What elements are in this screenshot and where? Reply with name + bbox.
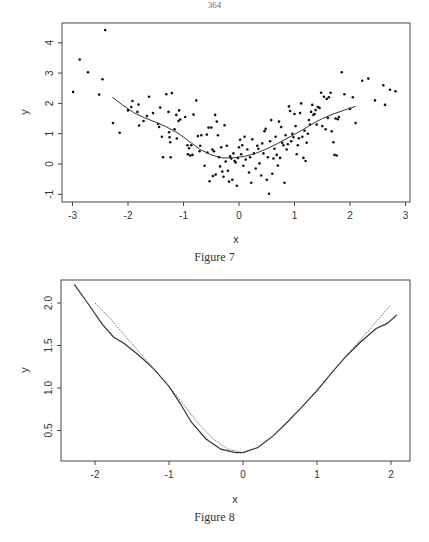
- x-axis-label: x: [232, 493, 238, 505]
- x-axis: -2-1012: [91, 461, 395, 480]
- y-axis: -101234: [44, 40, 62, 199]
- data-point: [269, 140, 272, 143]
- data-point: [176, 137, 179, 140]
- data-point: [104, 29, 107, 32]
- data-point: [216, 120, 219, 123]
- data-point: [321, 125, 324, 128]
- data-point: [287, 143, 290, 146]
- data-point: [313, 113, 316, 116]
- data-point: [236, 185, 239, 188]
- data-point: [310, 111, 313, 114]
- data-point: [159, 106, 162, 109]
- y-tick-label: 3: [44, 70, 55, 76]
- data-point: [203, 165, 206, 168]
- x-tick-label: -2: [124, 210, 133, 221]
- y-tick-label: -1: [44, 189, 55, 198]
- data-point: [308, 119, 311, 122]
- data-point: [162, 156, 165, 159]
- data-point: [329, 92, 332, 95]
- x-tick-label: -2: [91, 469, 100, 480]
- data-point: [208, 180, 211, 183]
- data-point: [188, 147, 191, 150]
- data-point: [214, 173, 217, 176]
- data-point: [165, 93, 168, 96]
- data-point: [389, 89, 392, 92]
- data-point: [242, 165, 245, 168]
- data-point: [285, 148, 288, 151]
- data-point: [273, 148, 276, 151]
- data-point: [352, 96, 355, 99]
- data-point: [207, 126, 210, 129]
- x-tick-label: -3: [68, 210, 77, 221]
- data-point: [219, 165, 222, 168]
- data-point: [271, 172, 274, 175]
- data-point: [333, 154, 336, 157]
- data-point: [223, 124, 226, 127]
- data-point: [241, 144, 244, 147]
- data-point: [98, 93, 101, 96]
- data-point: [212, 175, 215, 178]
- data-point: [142, 120, 145, 123]
- data-point: [324, 128, 327, 131]
- data-point: [189, 154, 192, 157]
- data-point: [198, 150, 201, 153]
- x-tick-label: 2: [347, 210, 353, 221]
- figure-8-caption: Figure 8: [0, 510, 429, 525]
- data-point: [332, 141, 335, 144]
- data-point: [234, 161, 237, 164]
- data-point: [243, 135, 246, 138]
- data-point: [338, 116, 341, 119]
- data-point: [272, 157, 275, 160]
- data-point: [220, 146, 223, 149]
- data-point: [226, 145, 229, 148]
- data-point: [314, 109, 317, 112]
- data-point: [304, 160, 307, 163]
- data-point: [267, 156, 270, 159]
- data-point: [340, 71, 343, 74]
- data-point: [262, 152, 265, 155]
- plot-frame: [61, 280, 410, 461]
- figure-7-caption: Figure 7: [0, 250, 429, 265]
- data-point: [78, 58, 81, 61]
- data-point: [244, 158, 247, 161]
- data-point: [250, 182, 253, 185]
- data-point: [320, 92, 323, 95]
- data-point: [301, 135, 304, 138]
- data-point: [112, 122, 115, 125]
- data-point: [148, 95, 151, 98]
- data-point: [179, 118, 182, 121]
- data-point: [87, 71, 90, 74]
- data-point: [214, 114, 217, 117]
- y-tick-label: 1.0: [43, 381, 54, 395]
- data-point: [197, 135, 200, 138]
- data-point: [268, 192, 271, 195]
- data-point: [384, 104, 387, 107]
- data-point: [278, 120, 281, 123]
- y-tick-label: 0: [44, 161, 55, 167]
- data-point: [130, 106, 133, 109]
- figure-7-scatter-plot: -3-2-10123 -101234 x y: [0, 0, 429, 255]
- data-point: [72, 91, 75, 94]
- data-point: [300, 102, 303, 105]
- data-point: [254, 167, 257, 170]
- x-axis-label: x: [233, 233, 239, 245]
- data-point: [192, 113, 195, 116]
- data-point: [171, 92, 174, 95]
- data-point: [323, 95, 326, 98]
- data-point: [334, 117, 337, 120]
- y-axis-label: y: [18, 367, 30, 373]
- data-point: [279, 157, 282, 160]
- data-point: [277, 164, 280, 167]
- data-point: [191, 154, 194, 157]
- data-point: [213, 150, 216, 153]
- data-point: [246, 148, 249, 151]
- data-point: [257, 148, 260, 151]
- estimate-solid-line: [74, 284, 397, 452]
- data-point: [217, 134, 220, 137]
- data-point: [195, 99, 198, 102]
- data-point: [169, 141, 172, 144]
- data-point: [283, 182, 286, 185]
- x-tick-label: -1: [179, 210, 188, 221]
- data-point: [292, 136, 295, 139]
- data-point: [299, 112, 302, 115]
